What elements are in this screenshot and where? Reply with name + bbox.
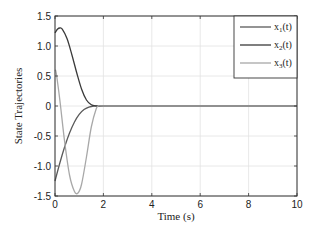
y-tick-label: 1.0: [37, 41, 51, 52]
y-tick-label: 1.5: [37, 11, 51, 22]
x-tick-label: 6: [197, 199, 203, 210]
legend: x1(t)x2(t)x3(t): [234, 16, 297, 78]
x-tick-label: 10: [291, 199, 303, 210]
state-trajectories-chart: 02468101.51.00.50-0.5-1.0-1.5 Time (s) S…: [0, 0, 313, 235]
y-axis-label: State Trajectories: [12, 68, 24, 145]
series-line-x3: [55, 70, 297, 194]
y-tick-label: 0: [45, 101, 51, 112]
x-tick-label: 8: [246, 199, 252, 210]
x-tick-label: 2: [101, 199, 107, 210]
y-tick-label: -1.5: [34, 191, 52, 202]
x-tick-label: 0: [52, 199, 58, 210]
x-tick-label: 4: [149, 199, 155, 210]
y-tick-label: -0.5: [34, 131, 52, 142]
y-tick-label: 0.5: [37, 71, 51, 82]
series-line-x1: [55, 106, 297, 181]
y-tick-label: -1.0: [34, 161, 52, 172]
x-axis-label: Time (s): [157, 210, 195, 223]
